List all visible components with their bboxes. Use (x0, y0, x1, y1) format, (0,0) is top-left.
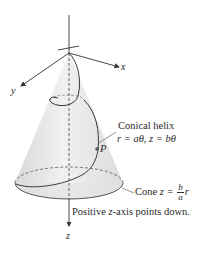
negative-x-axis (58, 46, 79, 50)
point-p-marker (95, 147, 99, 151)
cone-fraction: b a (177, 183, 184, 202)
orientation-note: Positive z-axis points down. (72, 207, 190, 218)
cone-rhs: r (185, 186, 189, 197)
note-before: Positive (72, 206, 108, 217)
y-axis-label: y (11, 86, 15, 96)
x-axis-label: x (121, 62, 125, 72)
cone-leader-line (122, 188, 134, 193)
point-p-label: P (100, 144, 106, 155)
helix-title: Conical helix (118, 121, 174, 132)
cone-equation-label: Cone z = b a r (135, 183, 189, 202)
cone-lhs: z = (160, 186, 174, 197)
z-axis-label: z (66, 231, 70, 241)
conical-helix-figure: x y z Conical helix r = aθ, z = bθ P Con… (0, 0, 200, 254)
cone-prefix: Cone (135, 186, 157, 197)
cone-fraction-denominator: a (177, 193, 184, 202)
helix-equation: r = aθ, z = bθ (117, 134, 176, 145)
note-after: -axis points down. (113, 206, 190, 217)
